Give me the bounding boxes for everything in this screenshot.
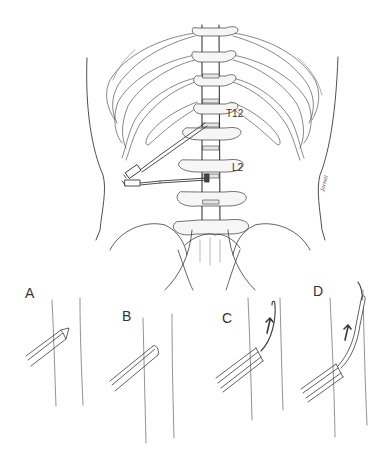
panel-d	[301, 282, 367, 437]
ribs-right	[231, 33, 322, 160]
needle-l2	[122, 174, 209, 186]
pelvis	[110, 224, 310, 290]
panel-a	[26, 298, 83, 406]
panel-b	[110, 314, 174, 443]
spine-illustration	[0, 0, 387, 455]
vertebra-label-l2: L2	[232, 162, 243, 173]
vertebra-label-t12: T12	[226, 108, 243, 119]
panel-label-a: A	[25, 285, 34, 301]
panel-label-d: D	[313, 283, 323, 299]
panel-label-c: C	[222, 310, 232, 326]
ribs-left	[107, 33, 197, 160]
panel-label-b: B	[122, 308, 131, 324]
anatomical-figure: T12 L2 A B C D Jarrell	[0, 0, 387, 455]
